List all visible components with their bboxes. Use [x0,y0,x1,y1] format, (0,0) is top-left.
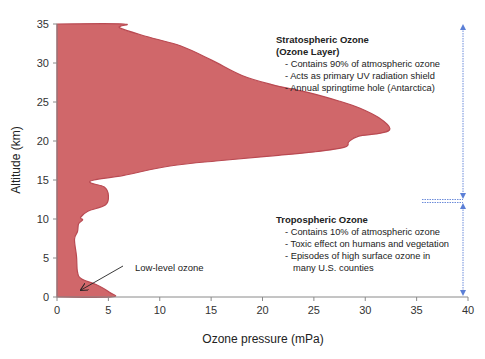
low-level-arrow-icon [81,266,123,290]
y-tick-label: 20 [37,135,49,147]
x-tick-label: 15 [205,304,217,316]
trop-bullet-1: - Contains 10% of atmospheric ozone [285,227,440,237]
x-tick-label: 20 [256,304,268,316]
stratospheric-annotation: Stratospheric Ozone (Ozone Layer) - Cont… [276,34,440,93]
x-tick-label: 0 [54,304,60,316]
strat-title-1: Stratospheric Ozone [276,34,369,45]
stratosphere-down-arrow-icon [460,193,466,199]
x-tick-label: 30 [359,304,371,316]
strat-bullet-1: - Contains 90% of atmospheric ozone [285,59,440,69]
y-tick-label: 5 [43,252,49,264]
trop-bullet-4: many U.S. counties [293,263,374,273]
strat-bullet-2: - Acts as primary UV radiation shield [285,71,435,81]
trop-title: Tropospheric Ozone [276,214,368,225]
trop-bullet-2: - Toxic effect on humans and vegetation [285,239,449,249]
y-tick-label: 15 [37,174,49,186]
low-level-label: Low-level ozone [135,262,204,273]
y-tick-label: 35 [37,18,49,30]
y-axis-title: Altitude (km) [9,126,23,193]
x-tick-label: 35 [411,304,423,316]
y-tick-label: 0 [43,291,49,303]
x-tick-label: 5 [105,304,111,316]
ozone-altitude-chart: 0510152025303540 05101520253035 Ozone pr… [0,0,485,359]
x-tick-label: 40 [462,304,474,316]
trop-bullet-3: - Episodes of high surface ozone in [285,251,430,261]
strat-title-2: (Ozone Layer) [276,46,339,57]
y-axis-ticks: 05101520253035 [37,18,57,303]
troposphere-down-arrow-icon [460,290,466,296]
x-tick-label: 10 [154,304,166,316]
stratosphere-up-arrow-icon [460,24,466,30]
x-axis-title: Ozone pressure (mPa) [202,332,323,346]
y-tick-label: 25 [37,96,49,108]
strat-bullet-3: - Annual springtime hole (Antarctica) [285,83,435,93]
y-tick-label: 10 [37,213,49,225]
tropospheric-annotation: Tropospheric Ozone - Contains 10% of atm… [276,214,449,273]
x-tick-label: 25 [308,304,320,316]
x-axis-ticks: 0510152025303540 [54,297,474,316]
y-tick-label: 30 [37,57,49,69]
